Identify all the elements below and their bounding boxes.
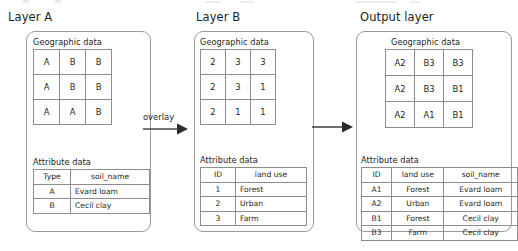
output-grid-row: A2A1B1 [386, 102, 473, 128]
layer-a-geographic-block: Geographic data ABBABBAAB [33, 37, 112, 125]
output-attr-cell: Cecil clay [444, 226, 518, 241]
layer-b-grid-cell: 1 [226, 100, 251, 125]
layer-b-grid-row: 233 [201, 50, 276, 75]
layer-a-grid-cell: B [86, 50, 112, 75]
layer-a-grid-cell: A [34, 100, 60, 125]
layer-a-grid-row: AAB [34, 100, 112, 125]
output-grid-cell: A1 [415, 102, 444, 128]
output-grid-cell: B1 [444, 102, 473, 128]
layer-a-grid-cell: A [60, 100, 86, 125]
output-grid-cell: B3 [415, 50, 444, 76]
layer-a-attr-cell: B [34, 199, 71, 214]
layer-a-attribute-label: Attribute data [33, 157, 150, 167]
output-grid-row: A2B3B3 [386, 50, 473, 76]
layer-a-geographic-label: Geographic data [33, 37, 112, 47]
layer-a-grid-cell: A [34, 50, 60, 75]
layer-a-grid-cell: B [86, 75, 112, 100]
layer-b-attr-cell: 1 [201, 182, 236, 197]
layer-a-grid-cell: B [60, 50, 86, 75]
output-attr-cell: Farm [392, 226, 444, 241]
layer-b-attr-cell: Forest [236, 182, 307, 197]
output-geographic-label: Geographic data [378, 37, 473, 47]
layer-a-attr-cell: A [34, 184, 71, 199]
output-layer-title: Output layer [360, 10, 434, 24]
output-attr-cell: B3 [362, 226, 392, 241]
layer-b-grid-row: 211 [201, 100, 276, 125]
output-attr-cell: Evard loam [444, 197, 518, 212]
layer-a-attribute-block: Attribute data Typesoil_nameAEvard loamB… [33, 157, 150, 214]
output-attribute-table: IDland usesoil_nameA1ForestEvard loamA2U… [361, 167, 518, 241]
layer-b-attr-column-header: land use [236, 168, 307, 183]
layer-b-grid-cell: 3 [226, 75, 251, 100]
output-attr-column-header: soil_name [444, 168, 518, 183]
layer-b-attribute-table: IDland use1Forest2Urban3Farm [200, 167, 307, 226]
layer-a-grid-row: ABB [34, 50, 112, 75]
layer-b-attr-row: 3Farm [201, 211, 307, 226]
output-grid-cell: B3 [415, 76, 444, 102]
layer-b-raster-grid: 233231211 [200, 49, 276, 125]
output-raster-grid: A2B3B3A2B3B1A2A1B1 [385, 49, 473, 128]
output-attr-column-header: land use [392, 168, 444, 183]
layer-a-attr-column-header: Type [34, 170, 71, 185]
layer-b-grid-cell: 1 [251, 75, 276, 100]
layer-a-attr-column-header: soil_name [71, 170, 150, 185]
output-attribute-block: Attribute data IDland usesoil_nameA1Fore… [361, 155, 518, 241]
layer-b-title: Layer B [196, 10, 240, 24]
layer-b-grid-cell: 2 [201, 100, 226, 125]
output-attr-cell: B1 [362, 211, 392, 226]
layer-b-attr-header-row: IDland use [201, 168, 307, 183]
layer-b-attribute-block: Attribute data IDland use1Forest2Urban3F… [200, 155, 307, 226]
layer-b-grid-row: 231 [201, 75, 276, 100]
layer-b-geographic-label: Geographic data [200, 37, 276, 47]
output-attr-row: B3FarmCecil clay [362, 226, 518, 241]
layer-a-title: Layer A [8, 10, 52, 24]
layer-b-attribute-label: Attribute data [200, 155, 307, 165]
layer-b-grid-cell: 3 [226, 50, 251, 75]
output-attr-row: B1ForestCecil clay [362, 211, 518, 226]
result-arrow [311, 120, 355, 134]
layer-b-geographic-block: Geographic data 233231211 [200, 37, 276, 125]
output-attr-row: A2UrbanEvard loam [362, 197, 518, 212]
output-attr-cell: Urban [392, 197, 444, 212]
layer-b-attr-cell: Urban [236, 197, 307, 212]
output-attr-row: A1ForestEvard loam [362, 182, 518, 197]
output-attr-cell: A1 [362, 182, 392, 197]
output-attribute-label: Attribute data [361, 155, 518, 165]
layer-a-attr-row: BCecil clay [34, 199, 150, 214]
layer-b-attr-cell: 2 [201, 197, 236, 212]
output-attr-cell: Forest [392, 211, 444, 226]
layer-a-attr-header-row: Typesoil_name [34, 170, 150, 185]
layer-b-attr-cell: Farm [236, 211, 307, 226]
overlay-arrow [142, 122, 190, 136]
layer-a-attribute-table: Typesoil_nameAEvard loamBCecil clay [33, 169, 150, 214]
layer-b-grid-cell: 3 [251, 50, 276, 75]
output-grid-cell: A2 [386, 102, 415, 128]
output-attr-cell: Forest [392, 182, 444, 197]
layer-a-attr-cell: Evard loam [71, 184, 150, 199]
layer-a-grid-cell: B [86, 100, 112, 125]
layer-b-grid-cell: 1 [251, 100, 276, 125]
output-geographic-block: Geographic data A2B3B3A2B3B1A2A1B1 [378, 37, 473, 128]
layer-a-grid-row: ABB [34, 75, 112, 100]
top-edge-artifact [0, 0, 518, 4]
layer-a-grid-cell: A [34, 75, 60, 100]
output-attr-cell: A2 [362, 197, 392, 212]
output-attr-column-header: ID [362, 168, 392, 183]
layer-a-grid-cell: B [60, 75, 86, 100]
output-attr-header-row: IDland usesoil_name [362, 168, 518, 183]
layer-a-attr-row: AEvard loam [34, 184, 150, 199]
layer-b-attr-column-header: ID [201, 168, 236, 183]
overlay-arrow-label: overlay [143, 112, 174, 122]
layer-a-raster-grid: ABBABBAAB [33, 49, 112, 125]
layer-b-grid-cell: 2 [201, 50, 226, 75]
output-grid-row: A2B3B1 [386, 76, 473, 102]
output-attr-cell: Evard loam [444, 182, 518, 197]
layer-b-attr-row: 2Urban [201, 197, 307, 212]
output-grid-cell: A2 [386, 50, 415, 76]
layer-a-attr-cell: Cecil clay [71, 199, 150, 214]
output-grid-cell: A2 [386, 76, 415, 102]
output-grid-cell: B3 [444, 50, 473, 76]
output-attr-cell: Cecil clay [444, 211, 518, 226]
layer-b-attr-row: 1Forest [201, 182, 307, 197]
layer-b-grid-cell: 2 [201, 75, 226, 100]
